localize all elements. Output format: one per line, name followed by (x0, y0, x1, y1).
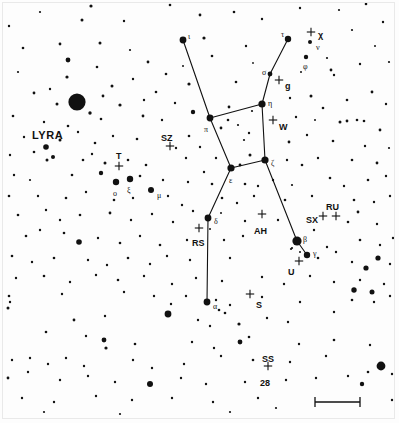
constellation-line (210, 104, 262, 118)
field-star-dot (376, 162, 379, 165)
field-star-dot (367, 179, 370, 182)
field-star-dot (221, 280, 223, 282)
field-star-dot (123, 20, 125, 22)
field-star-dot (117, 279, 120, 282)
field-star-dot (171, 283, 173, 285)
field-star-dot (181, 204, 183, 206)
variable-star-label-g: g (285, 82, 291, 91)
field-star-dot (287, 321, 289, 323)
star-label-tau: τ (281, 31, 284, 39)
field-star-dot (306, 134, 308, 136)
field-star-dot (209, 228, 211, 230)
field-star-dot (251, 110, 253, 112)
vega-dot (68, 93, 85, 110)
field-star-dot (266, 317, 268, 319)
field-star-dot (43, 144, 49, 150)
field-star-dot (82, 159, 85, 162)
field-star-dot (85, 335, 87, 337)
field-star-dot (97, 237, 99, 239)
field-star-dot (182, 65, 184, 67)
field-star-dot (21, 397, 23, 399)
named-star-dot (258, 100, 265, 107)
field-star-dot (77, 131, 79, 133)
field-star-dot (347, 375, 349, 377)
field-star-dot (17, 214, 20, 217)
star-label-mu: μ (157, 192, 161, 200)
field-star-dot (244, 220, 246, 222)
field-star-dot (162, 179, 164, 181)
field-star-dot (43, 411, 45, 413)
field-star-dot (363, 265, 368, 270)
field-star-dot (114, 381, 116, 383)
field-star-dot (192, 210, 194, 212)
field-star-dot (300, 71, 302, 73)
field-star-dot (61, 293, 63, 295)
field-star-dot (59, 219, 61, 221)
field-star-dot (261, 276, 263, 278)
field-star-dot (49, 88, 51, 90)
variable-star-label-ah: AH (254, 227, 267, 236)
field-star-dot (165, 311, 172, 318)
named-star-dot (268, 72, 273, 77)
field-star-dot (172, 221, 174, 223)
field-star-dot (215, 299, 217, 301)
field-star-dot (317, 157, 319, 159)
field-star-dot (43, 121, 45, 123)
star-field-canvas (0, 0, 399, 423)
field-star-dot (233, 11, 236, 14)
field-star-dot (187, 181, 189, 183)
scale-bar (315, 397, 360, 407)
field-star-dot (310, 95, 313, 98)
star-label-alpha-field: α (213, 303, 217, 311)
field-star-dot (127, 257, 130, 260)
field-star-dot (27, 371, 29, 373)
field-star-dot (119, 242, 122, 245)
field-star-dot (227, 119, 230, 122)
field-star-dot (37, 195, 39, 197)
star-label-pi: π (204, 126, 208, 134)
variable-star-label-u: U (288, 268, 295, 277)
field-star-dot (299, 7, 301, 9)
star-label-omicron: o (113, 190, 117, 198)
named-star-dot (304, 252, 310, 258)
field-star-dot (22, 47, 25, 50)
named-star-dot (113, 179, 119, 185)
vega-star (68, 93, 85, 110)
named-star-dots (113, 36, 312, 306)
field-star-dot (322, 107, 325, 110)
field-star-dot (325, 355, 327, 357)
field-star-dot (213, 347, 215, 349)
field-star-dot (170, 303, 172, 305)
field-star-dot (131, 399, 133, 401)
field-star-dot (235, 81, 238, 84)
field-star-dot (147, 61, 150, 64)
field-star-dot (223, 239, 225, 241)
constellation-line (208, 168, 231, 218)
field-star-dot (65, 357, 67, 359)
constellation-line (207, 218, 208, 302)
field-star-dot (91, 153, 93, 155)
field-star-dot (333, 74, 335, 76)
field-star-dot (8, 295, 11, 298)
star-label-nu: ν (316, 44, 320, 52)
named-star-dot (205, 215, 212, 222)
variable-star-label-t: T (116, 152, 122, 161)
field-star-dot (199, 146, 201, 148)
field-star-dot (389, 295, 391, 297)
field-star-dot (171, 397, 173, 399)
field-star-dot (139, 175, 142, 178)
field-star-dot (333, 311, 335, 313)
field-star-dot (347, 221, 350, 224)
star-label-gamma: γ (313, 250, 317, 258)
field-star-dot (31, 261, 33, 263)
field-star-dot (359, 239, 362, 242)
field-star-dot (360, 382, 364, 386)
star-label-sigma: σ (262, 69, 266, 77)
field-star-dot (73, 319, 76, 322)
field-star-dot (317, 257, 320, 260)
field-star-dot (249, 154, 252, 157)
field-star-dot (8, 195, 11, 198)
named-star-dot (308, 40, 312, 44)
field-star-dot (333, 339, 336, 342)
field-star-dot (174, 102, 176, 104)
